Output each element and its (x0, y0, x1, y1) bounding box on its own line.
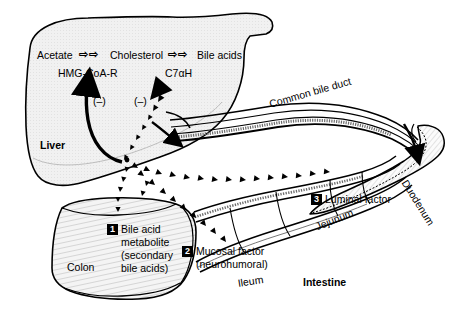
factor-1-line1: Bile acid (121, 224, 161, 236)
factor-3-callout: 3 Luminal factor (311, 194, 391, 206)
inhibition-symbol-hmgcoa: (–) (93, 96, 106, 108)
arrow-cholesterol-to-bileacids: ⇨⇨ (168, 49, 188, 61)
label-intestine: Intestine (303, 277, 346, 289)
label-c7alpha-h: C7αH (165, 68, 192, 80)
liver-shape (26, 13, 273, 185)
factor-1-line4: bile acids) (121, 263, 168, 275)
label-liver: Liver (40, 140, 65, 152)
figure-canvas: Acetate ⇨⇨ Cholesterol ⇨⇨ Bile acids HMG… (0, 0, 464, 325)
label-cholesterol: Cholesterol (110, 50, 163, 62)
factor-2-line2: (neurohumoral) (196, 259, 268, 271)
factor-2-line1: Mucosal factor (196, 246, 264, 258)
factor-2-number: 2 (182, 246, 193, 257)
label-hmg-coa-r: HMG-CoA-R (58, 68, 118, 80)
factor-1-line3: (secondary (121, 250, 173, 262)
inhibition-symbol-c7ah: (–) (134, 96, 147, 108)
label-colon: Colon (67, 262, 94, 274)
factor-1-number: 1 (107, 224, 118, 235)
feedback-trail-horizontal (131, 162, 330, 183)
factor-2-callout: 2 Mucosal factor (182, 246, 264, 258)
factor-1-line2: metabolite (121, 237, 169, 249)
factor-1-callout: 1 Bile acid (107, 224, 161, 236)
label-bile-acids: Bile acids (197, 50, 242, 62)
factor-3-line1: Luminal factor (325, 194, 391, 206)
label-acetate: Acetate (37, 50, 73, 62)
factor-3-number: 3 (311, 194, 322, 205)
arrow-acetate-to-cholesterol: ⇨⇨ (79, 49, 99, 61)
hilum-node (125, 158, 130, 163)
